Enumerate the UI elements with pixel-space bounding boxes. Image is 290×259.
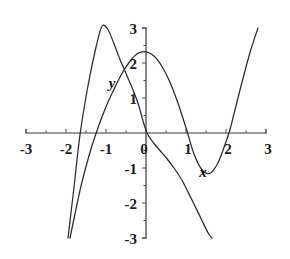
y-tick-label: 2	[130, 56, 138, 72]
y-tick-label: -1	[125, 161, 138, 177]
x-tick-label: 1	[184, 141, 192, 157]
y-tick-label: -3	[125, 231, 138, 247]
x-tick-label: -2	[60, 141, 73, 157]
curve-label-y: y	[107, 75, 116, 91]
x-tick-label: 3	[264, 141, 272, 157]
x-tick-label: -1	[100, 141, 113, 157]
graph-figure: -3-2-10123321-1-2-3 xy	[0, 0, 290, 259]
y-tick-label: -2	[125, 196, 138, 212]
curve-label-x: x	[198, 164, 207, 180]
curve-labels-group: xy	[107, 75, 208, 180]
curves-group	[68, 25, 258, 238]
curve-y	[68, 25, 212, 238]
plot-canvas: -3-2-10123321-1-2-3 xy	[0, 0, 290, 259]
axes-group	[26, 28, 266, 238]
y-tick-label: 1	[130, 91, 138, 107]
x-tick-label: -3	[20, 141, 33, 157]
x-tick-label-origin: 0	[140, 141, 148, 157]
y-tick-label: 3	[130, 21, 138, 37]
x-tick-label: 2	[224, 141, 232, 157]
